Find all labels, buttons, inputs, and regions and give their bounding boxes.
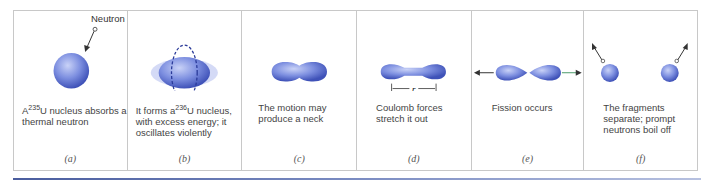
caption-b: It forms a236U nucleus, with excess ener… xyxy=(136,102,241,138)
label-b: (b) xyxy=(128,153,242,164)
label-f: (f) xyxy=(584,153,697,164)
panel-b: It forms a236U nucleus, with excess ener… xyxy=(128,11,243,170)
caption-c: The motion may produce a neck xyxy=(258,102,343,124)
caption-a: A235U nucleus absorbs a thermal neutron xyxy=(22,102,127,127)
separating-fragments-illustration xyxy=(584,11,697,91)
oscillating-nucleus-illustration xyxy=(128,11,242,91)
label-d: (d) xyxy=(357,153,471,164)
fission-illustration xyxy=(472,11,584,91)
caption-d: Coulomb forces stretch it out xyxy=(376,102,456,124)
panel-a: Neutron A235U nucleus absorbs a thermal … xyxy=(14,11,128,170)
label-a: (a) xyxy=(14,153,127,164)
caption-f: The fragments separate; prompt neutrons … xyxy=(603,102,701,135)
stretched-nucleus-illustration: r xyxy=(357,11,471,91)
separation-r-label: r xyxy=(412,84,416,91)
panel-e: Fission occurs (e) xyxy=(472,11,585,170)
neutron-label: Neutron xyxy=(91,13,125,24)
label-e: (e) xyxy=(472,153,584,164)
necked-nucleus-illustration xyxy=(242,11,356,91)
panel-c: The motion may produce a neck (c) xyxy=(242,11,357,170)
panel-d: r Coulomb forces stretch it out (d) xyxy=(357,11,472,170)
fission-figure: Neutron A235U nucleus absorbs a thermal … xyxy=(13,10,698,171)
label-c: (c) xyxy=(242,153,356,164)
accent-rule xyxy=(13,178,701,180)
panel-f: The fragments separate; prompt neutrons … xyxy=(584,11,697,170)
caption-e: Fission occurs xyxy=(492,102,553,113)
